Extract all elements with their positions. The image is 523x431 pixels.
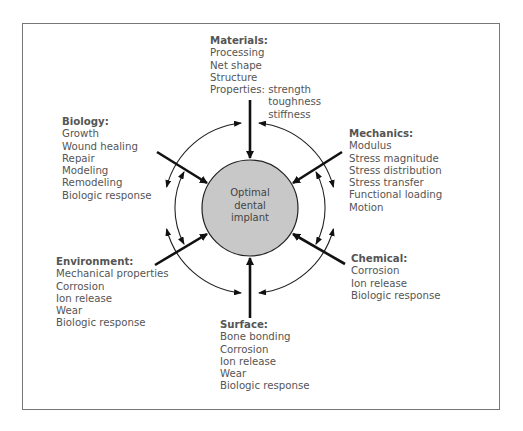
- mechanics-item: Stress transfer: [349, 177, 442, 189]
- surface-item: Ion release: [220, 356, 310, 368]
- center-label: Optimal dental implant: [210, 187, 290, 225]
- environment-block: Environment: Mechanical properties Corro…: [56, 256, 169, 330]
- mechanics-item: Motion: [349, 202, 442, 214]
- environment-item: Biologic response: [56, 317, 169, 329]
- environment-item: Wear: [56, 305, 169, 317]
- center-line: implant: [210, 212, 290, 225]
- materials-properties: Properties: strength toughness stiffness: [210, 84, 321, 121]
- environment-heading: Environment:: [56, 256, 169, 268]
- biology-block: Biology: Growth Wound healing Repair Mod…: [62, 116, 152, 202]
- biology-item: Growth: [62, 128, 152, 140]
- environment-item: Mechanical properties: [56, 268, 169, 280]
- materials-item: Structure: [210, 72, 321, 84]
- materials-item: Processing: [210, 47, 321, 59]
- property-item: strength: [268, 84, 321, 96]
- center-line: dental: [210, 200, 290, 213]
- materials-item: Net shape: [210, 60, 321, 72]
- arc-right: [316, 172, 325, 244]
- property-item: stiffness: [268, 109, 321, 121]
- environment-item: Ion release: [56, 293, 169, 305]
- biology-item: Repair: [62, 153, 152, 165]
- property-item: toughness: [268, 96, 321, 108]
- mechanics-item: Modulus: [349, 140, 442, 152]
- biology-heading: Biology:: [62, 116, 152, 128]
- mechanics-heading: Mechanics:: [349, 128, 442, 140]
- chemical-item: Corrosion: [351, 265, 441, 277]
- spoke-biology: [157, 152, 207, 183]
- biology-item: Modeling: [62, 165, 152, 177]
- arc-left: [175, 172, 184, 244]
- mechanics-block: Mechanics: Modulus Stress magnitude Stre…: [349, 128, 442, 214]
- biology-item: Remodeling: [62, 177, 152, 189]
- materials-block: Materials: Processing Net shape Structur…: [210, 35, 321, 121]
- materials-heading: Materials:: [210, 35, 321, 47]
- mechanics-item: Stress magnitude: [349, 153, 442, 165]
- properties-label: Properties:: [210, 84, 265, 121]
- surface-item: Wear: [220, 368, 310, 380]
- spoke-mechanics: [293, 152, 342, 183]
- mechanics-item: Functional loading: [349, 189, 442, 201]
- environment-item: Corrosion: [56, 281, 169, 293]
- mechanics-item: Stress distribution: [349, 165, 442, 177]
- surface-item: Corrosion: [220, 344, 310, 356]
- surface-item: Bone bonding: [220, 331, 310, 343]
- surface-item: Biologic response: [220, 380, 310, 392]
- chemical-block: Chemical: Corrosion Ion release Biologic…: [351, 253, 441, 302]
- biology-item: Wound healing: [62, 141, 152, 153]
- center-line: Optimal: [210, 187, 290, 200]
- surface-heading: Surface:: [220, 319, 310, 331]
- surface-block: Surface: Bone bonding Corrosion Ion rele…: [220, 319, 310, 393]
- chemical-heading: Chemical:: [351, 253, 441, 265]
- biology-item: Biologic response: [62, 190, 152, 202]
- chemical-item: Ion release: [351, 278, 441, 290]
- chemical-item: Biologic response: [351, 290, 441, 302]
